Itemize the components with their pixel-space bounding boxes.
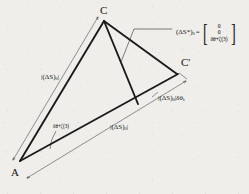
bar-close: |	[58, 73, 59, 81]
cprime-extension-tick	[179, 73, 187, 79]
matrix-row-2: 0	[218, 29, 221, 36]
right-edge-suffix-sub: λ	[183, 97, 185, 102]
matrix-equation: (ΔS*)0 = [ 0 0 δθ+ζ(3) ]	[176, 22, 237, 43]
bracket-right: ]	[231, 22, 236, 43]
leader-line	[121, 29, 172, 62]
bar-close: |	[127, 123, 128, 131]
vertex-label-c: C	[100, 5, 107, 16]
side-left-text: (ΔS)	[42, 73, 55, 81]
label-bottom-mid: |(ΔS)0|	[110, 124, 128, 131]
edge-a-to-cprime	[20, 74, 178, 161]
right-edge-text: (ΔS)	[159, 94, 172, 102]
edge-a-to-c	[20, 21, 104, 161]
bottom-mid-text: (ΔS)	[111, 123, 124, 131]
right-edge-suffix: δθ	[176, 94, 183, 102]
left-dimension-line	[13, 17, 98, 160]
matrix-row-1: 0	[218, 23, 221, 30]
label-angle-arc: δθ+ζ(3)	[53, 124, 69, 129]
equals-sign: =	[195, 29, 201, 36]
label-right-edge: |(ΔS)0|δθλ	[158, 95, 185, 102]
angle-arc	[50, 131, 56, 149]
matrix-row-3: δθ+ζ(3)	[210, 36, 227, 43]
label-side-left: |(ΔS)0|	[41, 74, 59, 81]
matrix-column: 0 0 δθ+ζ(3)	[209, 23, 228, 43]
vertex-label-a: A	[11, 167, 19, 178]
bracket-left: [	[203, 22, 208, 43]
equation-lhs: (ΔS*)0	[176, 29, 195, 36]
vertex-label-c-prime: C'	[181, 57, 190, 68]
lhs-text: (ΔS*)	[176, 28, 193, 36]
figure-canvas: C C' A |(ΔS)0| |(ΔS)0| |(ΔS)0|δθλ δθ+ζ(3…	[0, 0, 249, 194]
